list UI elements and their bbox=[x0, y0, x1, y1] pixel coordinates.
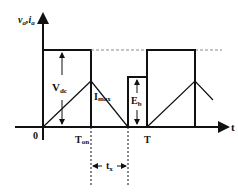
eb-label: Eb bbox=[131, 95, 142, 108]
ton-label: Ton bbox=[75, 134, 89, 146]
period-label: T bbox=[144, 134, 151, 145]
current-waveform-2 bbox=[147, 81, 213, 127]
x-axis-label: t bbox=[231, 121, 235, 133]
vdc-label: Vdc bbox=[52, 81, 67, 95]
waveform-diagram: va,ia t 0 Vdc Imax Eb Ton T tx bbox=[0, 0, 238, 195]
y-axis-label: va,ia bbox=[18, 14, 35, 27]
origin-label: 0 bbox=[33, 130, 38, 141]
tx-label: tx bbox=[106, 160, 113, 173]
imax-label: Imax bbox=[94, 91, 111, 103]
